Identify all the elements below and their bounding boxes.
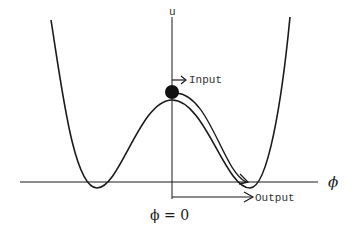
double-well-diagram: u Input Output ϕ ϕ = 0 xyxy=(0,0,355,238)
phi-axis-label: ϕ xyxy=(328,173,338,191)
output-label: Output xyxy=(255,192,295,204)
u-axis-label: u xyxy=(169,6,176,18)
origin-label: ϕ = 0 xyxy=(150,207,189,223)
ball xyxy=(165,85,179,99)
potential-curve xyxy=(51,17,290,188)
input-label: Input xyxy=(189,74,222,86)
